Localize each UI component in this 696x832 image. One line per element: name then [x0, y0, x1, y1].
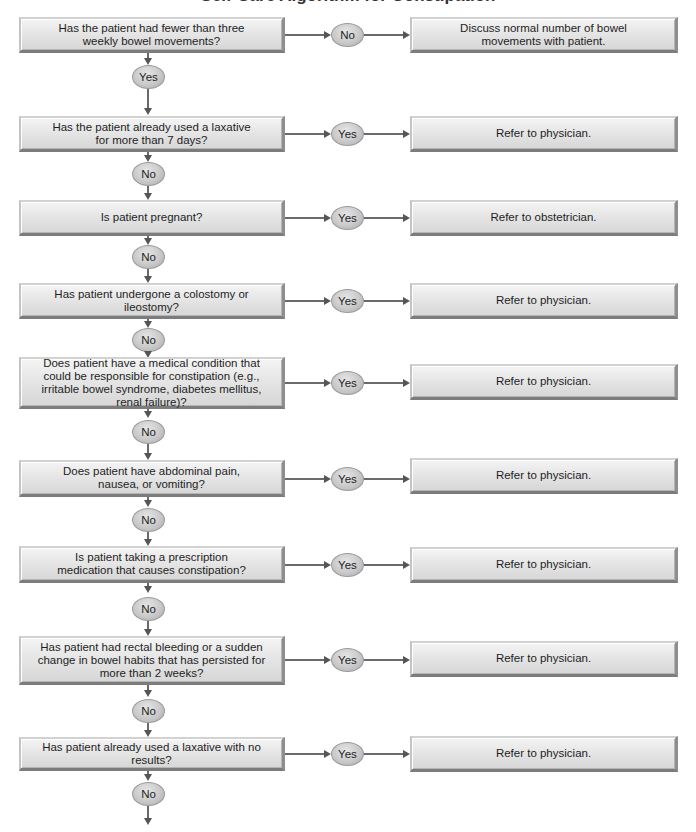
connector-line	[285, 659, 325, 661]
question-box-3: Is patient pregnant?	[19, 200, 285, 236]
arrow-right-icon	[324, 750, 331, 758]
connector-line	[285, 382, 325, 384]
arrow-right-icon	[324, 214, 331, 222]
branch-oval: Yes	[331, 371, 364, 395]
arrow-right-icon	[403, 750, 410, 758]
arrow-down-icon	[144, 629, 152, 636]
arrow-right-icon	[403, 656, 410, 664]
arrow-down-icon	[144, 411, 152, 418]
connector-line	[364, 478, 404, 480]
connector-line	[285, 133, 325, 135]
outcome-box-5: Refer to physician.	[410, 364, 678, 400]
outcome-box-6: Refer to physician.	[410, 458, 678, 494]
branch-oval: Yes	[331, 206, 364, 230]
arrow-down-icon	[144, 453, 152, 460]
arrow-right-icon	[403, 297, 410, 305]
connector-line	[285, 753, 325, 755]
question-box-1: Has the patient had fewer than three wee…	[19, 17, 285, 53]
branch-oval: Yes	[331, 289, 364, 313]
arrow-right-icon	[403, 214, 410, 222]
arrow-down-icon	[144, 539, 152, 546]
branch-oval: Yes	[331, 122, 364, 146]
arrow-down-icon	[144, 690, 152, 697]
connector-line	[364, 34, 404, 36]
arrow-right-icon	[324, 475, 331, 483]
arrow-right-icon	[403, 31, 410, 39]
arrow-right-icon	[324, 561, 331, 569]
outcome-box-7: Refer to physician.	[410, 547, 678, 583]
continue-oval: Yes	[132, 65, 165, 89]
branch-oval: Yes	[331, 467, 364, 491]
arrow-down-icon	[144, 108, 152, 115]
branch-oval: Yes	[331, 553, 364, 577]
connector-line	[285, 217, 325, 219]
arrow-right-icon	[324, 656, 331, 664]
arrow-right-icon	[403, 561, 410, 569]
arrow-right-icon	[324, 130, 331, 138]
arrow-down-icon	[144, 58, 152, 65]
connector-line	[285, 34, 325, 36]
continue-oval: No	[132, 328, 165, 352]
arrow-right-icon	[403, 475, 410, 483]
connector-line	[285, 300, 325, 302]
arrow-right-icon	[403, 379, 410, 387]
branch-oval: Yes	[331, 648, 364, 672]
question-box-2: Has the patient already used a laxative …	[19, 116, 285, 152]
arrow-down-icon	[144, 238, 152, 245]
outcome-box-2: Refer to physician.	[410, 116, 678, 152]
branch-oval: No	[331, 23, 364, 47]
connector-line	[364, 382, 404, 384]
arrow-down-icon	[144, 500, 152, 507]
connector-line	[364, 133, 404, 135]
continue-oval: No	[132, 699, 165, 723]
question-box-5: Does patient have a medical condition th…	[19, 357, 285, 409]
question-box-7: Is patient taking a prescription medicat…	[19, 546, 285, 583]
arrow-down-icon	[144, 730, 152, 737]
diagram-title: Self-Care Algorithm for Constipation	[0, 0, 696, 6]
question-box-6: Does patient have abdominal pain, nausea…	[19, 460, 285, 497]
connector-line	[364, 217, 404, 219]
continue-oval: No	[132, 597, 165, 621]
arrow-right-icon	[324, 31, 331, 39]
connector-line	[364, 659, 404, 661]
question-box-9: Has patient already used a laxative with…	[19, 737, 285, 771]
question-box-4: Has patient undergone a colostomy or ile…	[19, 283, 285, 319]
arrow-down-icon	[144, 774, 152, 781]
continue-oval: No	[132, 420, 165, 444]
connector-line	[364, 300, 404, 302]
arrow-right-icon	[403, 130, 410, 138]
arrow-down-icon	[144, 818, 152, 825]
connector-line	[285, 564, 325, 566]
connector-line	[364, 753, 404, 755]
outcome-box-9: Refer to physician.	[410, 736, 678, 772]
continue-oval: No	[132, 162, 165, 186]
connector-line	[147, 89, 149, 110]
outcome-box-1: Discuss normal number of bowel movements…	[410, 17, 678, 53]
question-box-8: Has patient had rectal bleeding or a sud…	[19, 636, 285, 685]
outcome-box-8: Refer to physician.	[410, 641, 678, 677]
arrow-down-icon	[144, 321, 152, 328]
outcome-box-4: Refer to physician.	[410, 283, 678, 319]
connector-line	[285, 478, 325, 480]
arrow-right-icon	[324, 379, 331, 387]
arrow-right-icon	[324, 297, 331, 305]
continue-oval: No	[132, 245, 165, 269]
arrow-down-icon	[144, 155, 152, 162]
continue-oval: No	[132, 508, 165, 532]
arrow-down-icon	[144, 276, 152, 283]
outcome-box-3: Refer to obstetrician.	[410, 200, 678, 236]
question-text: Has the patient had fewer than three wee…	[52, 22, 252, 48]
continue-oval: No	[132, 782, 165, 806]
arrow-down-icon	[144, 193, 152, 200]
connector-line	[364, 564, 404, 566]
branch-oval: Yes	[331, 742, 364, 766]
arrow-down-icon	[144, 586, 152, 593]
